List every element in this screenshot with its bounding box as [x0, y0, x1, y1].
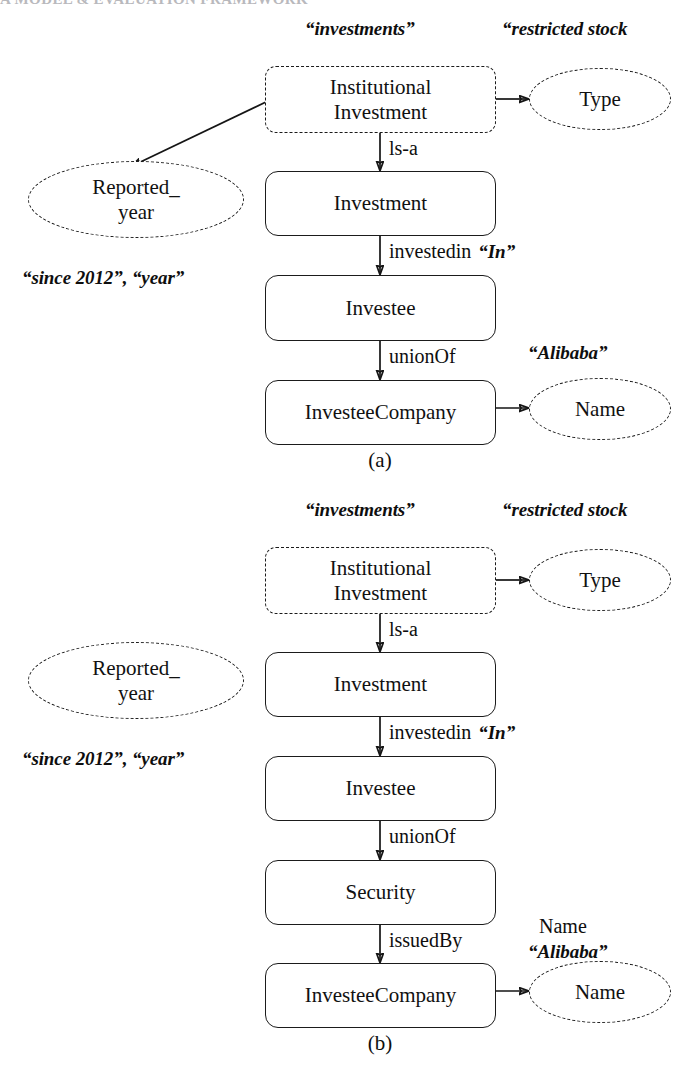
- running-header: A MODEL & EVALUATION FRAMEWORK: [0, 0, 420, 9]
- a-annot-since-2012: “since 2012”, “year”: [22, 267, 184, 289]
- b-edge-label-investedin-text: investedin: [389, 721, 471, 743]
- a-node-name-label: Name: [569, 397, 631, 422]
- b-node-investment-label: Investment: [328, 672, 433, 697]
- figure-b-caption: (b): [330, 1031, 430, 1056]
- a-node-type[interactable]: Type: [529, 68, 671, 130]
- b-annot-investments: “investments”: [305, 499, 415, 521]
- a-node-type-label: Type: [573, 87, 627, 112]
- b-annot-since-2012: “since 2012”, “year”: [22, 748, 184, 770]
- a-node-institutional-investment[interactable]: Institutional Investment: [265, 66, 496, 133]
- a-edge-literal-in: “In”: [478, 241, 515, 262]
- b-node-type[interactable]: Type: [529, 549, 671, 611]
- a-node-investee[interactable]: Investee: [265, 275, 496, 341]
- a-node-investee-company-label: InvesteeCompany: [299, 400, 463, 425]
- b-node-security-label: Security: [340, 880, 422, 905]
- a-edge-label-investedin-text: investedin: [389, 240, 471, 262]
- b-node-type-label: Type: [573, 568, 627, 593]
- b-node-institutional-investment[interactable]: Institutional Investment: [265, 547, 496, 614]
- a-annot-alibaba: “Alibaba”: [528, 342, 607, 364]
- b-node-reported-year-label: Reported_ year: [86, 656, 185, 706]
- a-node-investee-company[interactable]: InvesteeCompany: [265, 380, 496, 445]
- b-node-name[interactable]: Name: [529, 961, 671, 1023]
- a-node-investment-label: Investment: [328, 191, 433, 216]
- b-node-investment[interactable]: Investment: [265, 652, 496, 717]
- a-node-reported-year-label: Reported_ year: [86, 175, 185, 225]
- a-edge-label-is-a: ls-a: [389, 137, 418, 160]
- b-annot-restricted-stock: “restricted stock: [502, 499, 627, 521]
- a-edge-reported-year-arrow: [132, 101, 268, 166]
- b-edge-label-issuedby: issuedBy: [389, 929, 462, 952]
- b-node-investee-label: Investee: [340, 776, 422, 801]
- a-edge-label-unionof: unionOf: [389, 345, 456, 368]
- a-node-name[interactable]: Name: [529, 378, 671, 440]
- b-edge-label-unionof: unionOf: [389, 825, 456, 848]
- b-node-security[interactable]: Security: [265, 860, 496, 925]
- a-node-investee-label: Investee: [340, 296, 422, 321]
- a-node-investment[interactable]: Investment: [265, 171, 496, 236]
- b-node-reported-year[interactable]: Reported_ year: [28, 642, 244, 719]
- b-node-name-label: Name: [569, 980, 631, 1005]
- b-edge-literal-in: “In”: [478, 722, 515, 743]
- b-edge-label-is-a: ls-a: [389, 618, 418, 641]
- figure-a-caption: (a): [330, 448, 430, 473]
- b-edge-label-investedin: investedin“In”: [389, 721, 515, 744]
- b-node-institutional-investment-label: Institutional Investment: [324, 556, 438, 606]
- a-node-institutional-investment-label: Institutional Investment: [324, 75, 438, 125]
- b-node-investee-company[interactable]: InvesteeCompany: [265, 963, 496, 1028]
- a-edge-label-investedin: investedin“In”: [389, 240, 515, 263]
- b-node-investee-company-label: InvesteeCompany: [299, 983, 463, 1008]
- b-node-investee[interactable]: Investee: [265, 756, 496, 821]
- b-annot-name-plain: Name: [539, 915, 587, 938]
- a-node-reported-year[interactable]: Reported_ year: [28, 161, 244, 238]
- figure-root: A MODEL & EVALUATION FRAMEWORK: [0, 0, 693, 1086]
- a-annot-restricted-stock: “restricted stock: [502, 18, 627, 40]
- b-annot-alibaba: “Alibaba”: [528, 941, 607, 963]
- a-annot-investments: “investments”: [305, 18, 415, 40]
